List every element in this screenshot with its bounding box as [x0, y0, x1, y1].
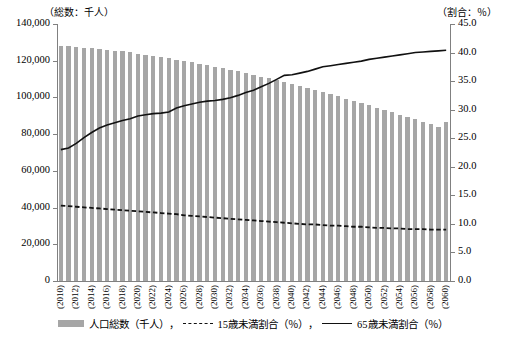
right-axis-tick-label: 15.0 [458, 188, 476, 199]
left-axis-tick-label: 140,000 [16, 17, 50, 28]
right-axis-tick-label: 40.0 [458, 46, 476, 57]
x-axis-tick-label: (2032) [225, 285, 234, 309]
right-axis-tick [451, 53, 455, 54]
right-axis-tick [451, 24, 455, 25]
right-axis-tick-label: 30.0 [458, 103, 476, 114]
x-axis-tick-label: (2060) [441, 285, 450, 309]
right-axis-tick [451, 138, 455, 139]
plot-area [57, 24, 450, 281]
x-axis-tick-label: (2028) [195, 285, 204, 309]
legend-separator: ， [169, 316, 183, 331]
right-axis-tick [451, 224, 455, 225]
x-axis-tick-label: (2022) [148, 285, 157, 309]
right-axis-tick-label: 20.0 [458, 160, 476, 171]
right-axis-tick [451, 195, 455, 196]
left-axis-unit-label: （総数：千人） [44, 4, 114, 19]
x-axis-tick-label: (2036) [256, 285, 265, 309]
x-axis-tick-label: (2048) [349, 285, 358, 309]
lines-layer [57, 24, 450, 281]
youth-share-line [61, 206, 446, 230]
x-axis-tick-label: (2010) [56, 285, 65, 309]
left-axis-tick-label: 60,000 [21, 164, 50, 175]
x-axis-tick-label: (2026) [179, 285, 188, 309]
right-axis-tick-label: 0.0 [458, 274, 471, 285]
x-axis-tick-label: (2046) [333, 285, 342, 309]
x-axis-tick-label: (2024) [164, 285, 173, 309]
x-axis-tick-label: (2038) [272, 285, 281, 309]
left-axis-tick [53, 281, 57, 282]
chart-legend: 人口総数（千人），15歳未満割合（％），65歳未満割合（％） [0, 316, 505, 331]
x-axis-tick-label: (2044) [318, 285, 327, 309]
x-axis-tick-label: (2018) [118, 285, 127, 309]
right-axis-tick [451, 281, 455, 282]
left-axis-tick-label: 20,000 [21, 237, 50, 248]
left-axis-tick-label: 0 [45, 274, 50, 285]
x-axis-tick-label: (2054) [395, 285, 404, 309]
x-axis-tick-label: (2052) [380, 285, 389, 309]
x-axis-tick-label: (2012) [71, 285, 80, 309]
x-axis-tick-label: (2042) [302, 285, 311, 309]
legend-separator: ， [308, 316, 322, 331]
x-axis-tick-label: (2056) [410, 285, 419, 309]
x-axis-tick-label: (2034) [241, 285, 250, 309]
legend-label: 15歳未満割合（％） [218, 316, 309, 331]
elderly-share-line [61, 50, 446, 149]
x-axis-tick-label: (2058) [426, 285, 435, 309]
right-axis-tick-label: 25.0 [458, 131, 476, 142]
left-axis-tick-label: 100,000 [16, 90, 50, 101]
legend-label: 65歳未満割合（％） [357, 316, 448, 331]
left-axis-tick-label: 40,000 [21, 201, 50, 212]
x-axis-tick-label: (2030) [210, 285, 219, 309]
legend-item[interactable]: 15歳未満割合（％） [183, 316, 309, 331]
right-axis-tick-label: 35.0 [458, 74, 476, 85]
bar-swatch-icon [58, 320, 84, 327]
legend-label: 人口総数（千人） [89, 316, 169, 331]
right-axis-tick [451, 167, 455, 168]
solid-line-icon [322, 323, 352, 324]
x-axis-tick-label: (2014) [87, 285, 96, 309]
right-axis-tick [451, 110, 455, 111]
right-axis-tick-label: 10.0 [458, 217, 476, 228]
x-axis-tick-label: (2016) [102, 285, 111, 309]
left-axis-tick-label: 80,000 [21, 127, 50, 138]
right-axis-tick-label: 45.0 [458, 17, 476, 28]
chart-figure: （総数：千人） （割合：％） 140,000120,000100,00080,0… [0, 0, 505, 344]
x-axis-tick-label: (2050) [364, 285, 373, 309]
legend-item[interactable]: 65歳未満割合（％） [322, 316, 448, 331]
right-axis-line [450, 24, 451, 282]
left-axis-tick-label: 120,000 [16, 54, 50, 65]
right-axis-tick [451, 81, 455, 82]
right-axis-tick-label: 5.0 [458, 245, 471, 256]
legend-item[interactable]: 人口総数（千人） [58, 316, 169, 331]
x-axis-tick-label: (2020) [133, 285, 142, 309]
right-axis-tick [451, 252, 455, 253]
x-axis-line [57, 281, 451, 282]
x-axis-tick-label: (2040) [287, 285, 296, 309]
dashed-line-icon [183, 323, 213, 324]
